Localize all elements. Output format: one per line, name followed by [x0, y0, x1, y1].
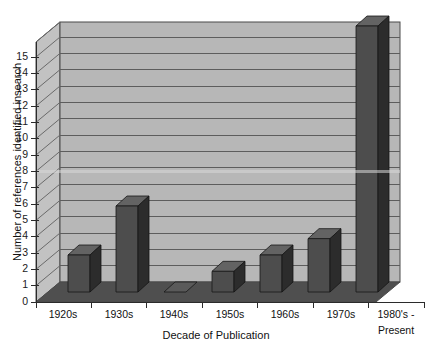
y-tick-label: 15: [16, 50, 28, 62]
x-tick-label-1950s: 1950s: [216, 308, 245, 320]
y-tick-label: 3: [22, 246, 28, 258]
bar-1930s: [116, 196, 149, 292]
x-tick-label-1980s-present-line1: 1980's -: [377, 308, 415, 320]
x-tick-label-1930s: 1930s: [105, 308, 134, 320]
y-tick-label: 4: [22, 229, 28, 241]
y-tick-label: 8: [22, 164, 28, 176]
y-tick-label: 9: [22, 148, 28, 160]
plot-back-wall: [60, 22, 400, 282]
y-axis-title: Number of references identified insearch: [11, 63, 23, 261]
x-tick-label-1960s: 1960s: [271, 308, 300, 320]
chart-canvas: 0 1 2 3 4 5 6 7 8 9 10 11 12 13 14 15: [0, 0, 437, 342]
bar-1960s: [260, 245, 293, 292]
scan-artifact-band: [36, 170, 400, 173]
bar-1920s: [68, 245, 101, 292]
bar-1980s-present: [356, 16, 389, 292]
y-tick-label: 2: [22, 262, 28, 274]
y-tick-label: 7: [22, 180, 28, 192]
plot-left-wall: [36, 22, 60, 302]
y-tick-label: 1: [22, 278, 28, 290]
y-tick-label: 6: [22, 197, 28, 209]
x-tick-label-1980s-present-line2: Present: [378, 324, 414, 336]
x-axis-title: Decade of Publication: [162, 329, 269, 341]
bar-chart: 0 1 2 3 4 5 6 7 8 9 10 11 12 13 14 15: [0, 0, 437, 342]
y-tick-label: 5: [22, 213, 28, 225]
x-tick-label-1920s: 1920s: [49, 308, 78, 320]
bar-1970s: [308, 229, 341, 292]
x-tick-label-1970s: 1970s: [327, 308, 356, 320]
x-tick-label-1940s: 1940s: [160, 308, 189, 320]
y-tick-label: 0: [22, 295, 28, 307]
